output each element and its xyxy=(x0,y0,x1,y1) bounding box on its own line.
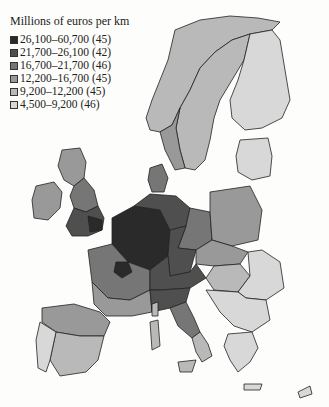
legend-item: 16,700–21,700 (46) xyxy=(10,59,129,72)
region-denmark xyxy=(148,164,168,192)
legend-swatch xyxy=(10,36,18,44)
legend-item: 9,200–12,200 (45) xyxy=(10,85,129,98)
legend-label: 21,700–26,100 (42) xyxy=(20,46,111,59)
legend-label: 4,500–9,200 (46) xyxy=(20,98,100,111)
region-italy-central xyxy=(170,302,200,338)
region-italy-south xyxy=(192,332,212,362)
legend-label: 12,200–16,700 (45) xyxy=(20,72,111,85)
region-spain-south xyxy=(50,332,104,376)
region-baltics xyxy=(236,138,272,180)
legend-swatch xyxy=(10,88,18,96)
map-legend: Millions of euros per km 26,100–60,700 (… xyxy=(10,14,129,111)
region-sardinia xyxy=(150,320,160,350)
region-greece xyxy=(224,332,258,372)
legend-item: 4,500–9,200 (46) xyxy=(10,98,129,111)
region-crete xyxy=(244,384,262,390)
legend-item: 21,700–26,100 (42) xyxy=(10,46,129,59)
region-cyprus xyxy=(298,386,312,398)
legend-swatch xyxy=(10,62,18,70)
region-corsica xyxy=(152,302,158,316)
legend-swatch xyxy=(10,101,18,109)
legend-label: 9,200–12,200 (45) xyxy=(20,85,105,98)
legend-item: 12,200–16,700 (45) xyxy=(10,72,129,85)
legend-label: 26,100–60,700 (45) xyxy=(20,33,111,46)
legend-title: Millions of euros per km xyxy=(10,14,129,29)
legend-item: 26,100–60,700 (45) xyxy=(10,33,129,46)
legend-label: 16,700–21,700 (46) xyxy=(20,59,111,72)
region-ireland xyxy=(32,182,62,220)
region-poland xyxy=(210,186,262,246)
legend-swatch xyxy=(10,49,18,57)
region-sicily xyxy=(178,360,196,372)
legend-swatch xyxy=(10,75,18,83)
